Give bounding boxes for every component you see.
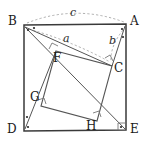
vertex-label-F: F [53,52,61,64]
right-angle-c [105,55,113,61]
arc-label-a: a [63,33,70,44]
vertex-label-B: B [8,15,17,27]
arc-label-c: c [70,7,76,18]
vertex-label-G: G [30,91,40,103]
vertex-label-C: C [114,62,123,74]
angle-dot-b1 [27,29,29,31]
vertex-label-D: D [7,123,17,135]
angle-dot-d1 [27,126,29,128]
vertex-label-H: H [86,120,96,132]
angle-dot-a2 [122,36,124,38]
vertex-label-A: A [130,15,139,27]
angle-dot-e1 [120,126,122,128]
arc-label-b: b [109,35,116,46]
angle-dot-d2 [26,116,28,118]
angle-dot-a1 [121,28,123,30]
right-angle-f [49,43,58,49]
geometry-figure [0,0,148,148]
diagram-root: B A E D F C H G c a b [0,0,148,148]
vertex-label-E: E [130,123,139,135]
angle-dot-b2 [33,27,35,29]
